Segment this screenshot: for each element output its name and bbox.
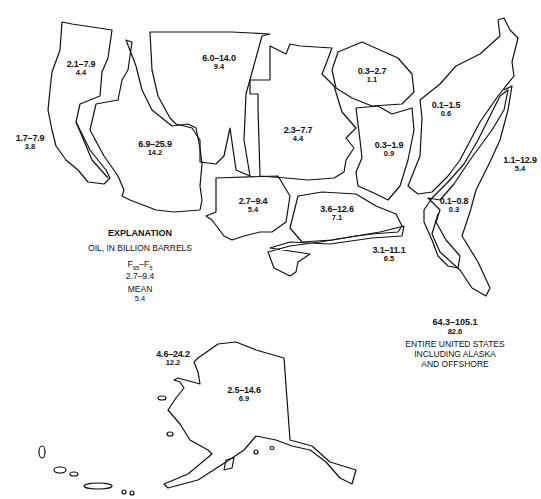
island-7 — [158, 396, 166, 400]
island-2 — [54, 467, 66, 473]
label-gulf-offshore: 3.1–11.1 6.5 — [373, 246, 406, 263]
island-8 — [167, 432, 173, 436]
total-caption-line3: AND OFFSHORE — [380, 359, 530, 369]
label-appalachian: 0.1–1.5 0.6 — [432, 101, 461, 118]
mean: 6.9 — [227, 395, 260, 403]
fractile-dash-f: –F — [139, 259, 149, 269]
label-pacific-northwest: 2.1–7.9 4.4 — [67, 60, 96, 77]
mean: 0.6 — [432, 110, 461, 118]
label-atlantic-offshore: 1.1–12.9 5.4 — [503, 156, 536, 173]
island-6 — [130, 491, 134, 495]
legend-example-mean: 5.4 — [60, 294, 220, 303]
total-caption-line1: ENTIRE UNITED STATES — [380, 339, 530, 349]
total-range: 64.3–105.1 — [380, 317, 530, 327]
label-gulf-coast: 3.6–12.6 7.1 — [320, 205, 353, 222]
label-illinois: 0.3–1.9 0.9 — [375, 141, 404, 158]
total-caption-line2: INCLUDING ALASKA — [380, 349, 530, 359]
label-atlantic-coastal-plain: 0.1–0.8 0.3 — [440, 197, 469, 214]
region-outline-alaska-gulf-islands — [224, 458, 234, 470]
island-10 — [270, 447, 274, 450]
legend-mean-header: MEAN — [60, 284, 220, 294]
label-michigan: 0.3–2.7 1.1 — [358, 67, 387, 84]
legend-unit: OIL, IN BILLION BARRELS — [60, 243, 220, 253]
island-5 — [122, 490, 126, 494]
mean: 4.4 — [284, 135, 313, 143]
label-alaska-onshore: 2.5–14.6 6.9 — [227, 386, 260, 403]
total-estimate: 64.3–105.1 82.6 ENTIRE UNITED STATES INC… — [380, 317, 530, 370]
mean: 3.8 — [16, 143, 45, 151]
fractile-sub-5: 5 — [149, 265, 152, 271]
legend-example-range: 2.7–9.4 — [60, 271, 220, 281]
legend-title: EXPLANATION — [60, 228, 220, 238]
label-northern-rockies: 6.0–14.0 9.4 — [202, 54, 235, 71]
mean: 14.2 — [138, 149, 171, 157]
region-outline-appalachian — [408, 18, 518, 194]
label-alaska-offshore: 4.6–24.2 12.2 — [156, 350, 189, 367]
region-outline-mid-continent — [250, 44, 356, 180]
mean: 0.9 — [375, 150, 404, 158]
mean: 4.4 — [67, 69, 96, 77]
legend-fractile-header: F95–F5 — [60, 259, 220, 271]
legend-explanation: EXPLANATION OIL, IN BILLION BARRELS F95–… — [60, 228, 220, 303]
island-9 — [254, 450, 258, 454]
mean: 9.4 — [202, 63, 235, 71]
island-4 — [84, 483, 112, 489]
mean: 1.1 — [358, 76, 387, 84]
total-mean: 82.6 — [380, 327, 530, 336]
mean: 12.2 — [156, 359, 189, 367]
label-pacific-offshore: 1.7–7.9 3.8 — [16, 134, 45, 151]
mean: 7.1 — [320, 214, 353, 222]
island-1 — [39, 446, 45, 458]
mean: 6.5 — [373, 255, 406, 263]
region-outline-alaska — [164, 342, 356, 488]
mean: 5.4 — [239, 206, 268, 214]
island-3 — [70, 472, 78, 476]
label-mid-continent: 2.3–7.7 4.4 — [284, 126, 313, 143]
label-great-basin: 6.9–25.9 14.2 — [138, 140, 171, 157]
mean: 0.3 — [440, 206, 469, 214]
mean: 5.4 — [503, 165, 536, 173]
label-west-texas: 2.7–9.4 5.4 — [239, 197, 268, 214]
